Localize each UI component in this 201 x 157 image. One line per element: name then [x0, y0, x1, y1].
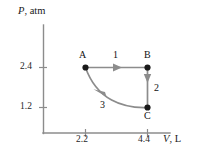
- x-axis-unit: L: [175, 133, 181, 144]
- y-tick-label-lower: 1.2: [20, 102, 32, 112]
- pv-diagram-figure: P, atm V, L 2.4 1.2 2.2 4.4 A B C 1 2 3: [0, 0, 201, 157]
- y-axis-unit: atm: [30, 5, 46, 16]
- point-label-b: B: [144, 50, 151, 60]
- data-point-A: [82, 64, 88, 70]
- x-tick-label-right: 4.4: [138, 135, 150, 145]
- data-point-B: [144, 64, 150, 70]
- process-1-arrowhead: [113, 64, 122, 72]
- process-label-1: 1: [113, 50, 118, 60]
- x-tick-label-left: 2.2: [76, 135, 88, 145]
- process-label-3: 3: [100, 100, 105, 110]
- process-3-path: [86, 68, 148, 108]
- y-axis-title: P, atm: [18, 6, 45, 17]
- x-axis-title: V, L: [163, 134, 181, 145]
- point-label-a: A: [79, 50, 86, 60]
- y-tick-label-upper: 2.4: [20, 62, 32, 72]
- process-label-2: 2: [154, 83, 159, 93]
- process-2-arrowhead: [144, 74, 151, 83]
- point-label-c: C: [144, 111, 151, 121]
